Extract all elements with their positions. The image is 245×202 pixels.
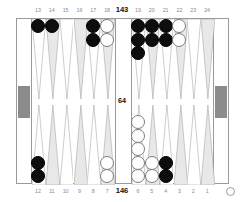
point-24[interactable] <box>201 19 215 102</box>
point-label-23: 23 <box>186 7 200 14</box>
point-label-15: 15 <box>59 7 73 14</box>
bottom-pip-count: 146 <box>111 186 133 195</box>
point-label-20: 20 <box>145 7 159 14</box>
point-9[interactable] <box>74 102 88 185</box>
checker-black-point-14[interactable] <box>45 19 59 33</box>
checker-black-point-4[interactable] <box>159 156 173 170</box>
point-label-11: 11 <box>45 188 59 195</box>
point-23[interactable] <box>187 19 201 102</box>
white-to-move-marker <box>226 187 235 196</box>
bear-off-tray-right[interactable] <box>213 19 228 183</box>
checker-white-point-7[interactable] <box>100 156 114 170</box>
point-label-8: 8 <box>86 188 100 195</box>
point-label-9: 9 <box>72 188 86 195</box>
checker-white-point-6[interactable] <box>131 142 145 156</box>
checker-white-point-22[interactable] <box>172 33 186 47</box>
bar-pip-value: 64 <box>111 96 133 105</box>
checker-white-point-6[interactable] <box>131 115 145 129</box>
point-8[interactable] <box>87 102 101 185</box>
checker-black-point-19[interactable] <box>131 19 145 33</box>
point-label-22: 22 <box>172 7 186 14</box>
tray-slot-left <box>18 86 30 118</box>
checker-black-point-12[interactable] <box>31 156 45 170</box>
checker-white-point-18[interactable] <box>100 33 114 47</box>
checker-black-point-21[interactable] <box>159 19 173 33</box>
point-label-12: 12 <box>31 188 45 195</box>
point-label-13: 13 <box>31 7 45 14</box>
checker-black-point-17[interactable] <box>86 33 100 47</box>
checker-white-point-7[interactable] <box>100 169 114 183</box>
bear-off-tray-left[interactable] <box>17 19 32 183</box>
checker-black-point-13[interactable] <box>31 19 45 33</box>
point-2[interactable] <box>187 102 201 185</box>
tray-slot-right <box>215 86 227 118</box>
point-16[interactable] <box>74 19 88 102</box>
checker-black-point-19[interactable] <box>131 46 145 60</box>
checker-white-point-5[interactable] <box>145 156 159 170</box>
checker-black-point-20[interactable] <box>145 33 159 47</box>
point-label-4: 4 <box>159 188 173 195</box>
point-label-1: 1 <box>200 188 214 195</box>
point-label-5: 5 <box>145 188 159 195</box>
point-11[interactable] <box>46 102 60 185</box>
point-label-19: 19 <box>131 7 145 14</box>
point-3[interactable] <box>174 102 188 185</box>
point-label-10: 10 <box>59 188 73 195</box>
point-label-3: 3 <box>172 188 186 195</box>
point-label-14: 14 <box>45 7 59 14</box>
checker-black-point-19[interactable] <box>131 33 145 47</box>
checker-black-point-12[interactable] <box>31 169 45 183</box>
point-label-17: 17 <box>86 7 100 14</box>
point-label-16: 16 <box>72 7 86 14</box>
point-1[interactable] <box>201 102 215 185</box>
quadrant-top-right <box>132 19 215 102</box>
point-label-2: 2 <box>186 188 200 195</box>
point-15[interactable] <box>60 19 74 102</box>
point-label-6: 6 <box>131 188 145 195</box>
point-10[interactable] <box>60 102 74 185</box>
checker-black-point-20[interactable] <box>145 19 159 33</box>
checker-white-point-18[interactable] <box>100 19 114 33</box>
checker-white-point-6[interactable] <box>131 156 145 170</box>
point-label-21: 21 <box>159 7 173 14</box>
checker-white-point-6[interactable] <box>131 129 145 143</box>
backgammon-board: 131415161718192021222324 121110987654321… <box>0 0 245 202</box>
checker-white-point-5[interactable] <box>145 169 159 183</box>
point-label-24: 24 <box>200 7 214 14</box>
top-pip-count: 143 <box>111 5 133 14</box>
checker-white-point-6[interactable] <box>131 169 145 183</box>
checker-black-point-4[interactable] <box>159 169 173 183</box>
checker-black-point-21[interactable] <box>159 33 173 47</box>
